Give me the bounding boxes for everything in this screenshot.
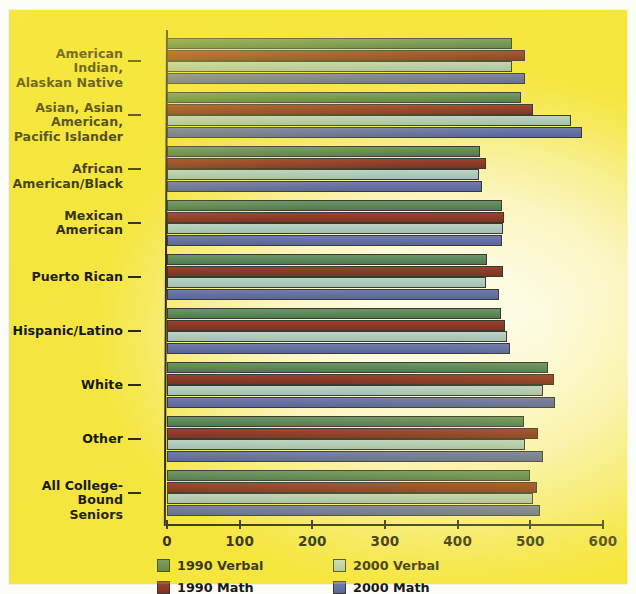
legend-item: 2000 Verbal — [333, 558, 439, 573]
category-leader-line — [128, 168, 141, 170]
category-label: All College-Bound Seniors — [9, 479, 123, 523]
bar — [167, 92, 521, 103]
bar — [167, 331, 507, 342]
bar — [167, 212, 504, 223]
bar — [167, 223, 503, 234]
bar — [167, 320, 505, 331]
bar — [167, 505, 540, 516]
bar — [167, 308, 501, 319]
bar — [167, 397, 555, 408]
blue-swatch — [333, 581, 346, 594]
x-tick-600 — [602, 520, 604, 529]
bar — [167, 493, 533, 504]
category-label: White — [81, 378, 123, 393]
bar — [167, 50, 525, 61]
bar — [167, 158, 486, 169]
light-blue-swatch — [333, 559, 346, 572]
x-tick-label-300: 300 — [371, 533, 400, 549]
legend-item: 1990 Math — [157, 580, 254, 594]
bar — [167, 343, 510, 354]
legend-label: 2000 Math — [353, 580, 430, 594]
legend-label: 2000 Verbal — [353, 558, 439, 573]
bar — [167, 115, 571, 126]
bar — [167, 169, 479, 180]
category-label-column: American Indian, Alaskan NativeAsian, As… — [9, 24, 145, 536]
bar — [167, 362, 548, 373]
bar — [167, 470, 530, 481]
category-leader-line — [128, 330, 141, 332]
category-leader-line — [128, 276, 141, 278]
category-leader-line — [128, 114, 141, 116]
bar — [167, 127, 582, 138]
bar — [167, 61, 512, 72]
bar — [167, 277, 486, 288]
x-tick-label-400: 400 — [443, 533, 472, 549]
category-label: Hispanic/Latino — [13, 324, 123, 339]
chart-canvas: American Indian, Alaskan NativeAsian, As… — [9, 10, 627, 584]
category-leader-line — [128, 438, 141, 440]
x-tick-label-100: 100 — [225, 533, 254, 549]
legend-label: 1990 Verbal — [177, 558, 263, 573]
bar — [167, 451, 543, 462]
x-tick-400 — [457, 520, 459, 529]
chart-legend: 1990 Verbal1990 Math2000 Verbal2000 Math — [157, 558, 487, 594]
category-leader-line — [128, 60, 141, 62]
x-tick-label-200: 200 — [298, 533, 327, 549]
category-label: Other — [82, 432, 123, 447]
bar — [167, 146, 480, 157]
x-tick-label-500: 500 — [516, 533, 545, 549]
bar — [167, 104, 533, 115]
category-label: Mexican American — [56, 209, 123, 238]
bar — [167, 235, 502, 246]
bar — [167, 439, 525, 450]
category-leader-line — [128, 222, 141, 224]
category-label: Puerto Rican — [31, 270, 123, 285]
bar — [167, 73, 525, 84]
x-tick-300 — [384, 520, 386, 529]
x-tick-0 — [166, 520, 168, 529]
dark-red-swatch — [157, 581, 170, 594]
bar — [167, 428, 538, 439]
bar — [167, 416, 524, 427]
chart-page: American Indian, Alaskan NativeAsian, As… — [0, 0, 636, 594]
category-leader-line — [128, 384, 141, 386]
legend-item: 1990 Verbal — [157, 558, 263, 573]
x-tick-label-600: 600 — [589, 533, 618, 549]
legend-item: 2000 Math — [333, 580, 430, 594]
category-label: Asian, Asian American, Pacific Islander — [9, 101, 123, 145]
x-tick-label-0: 0 — [162, 533, 172, 549]
category-label: American Indian, Alaskan Native — [9, 47, 123, 91]
bar — [167, 38, 512, 49]
category-label: African American/Black — [9, 162, 123, 191]
green-swatch — [157, 559, 170, 572]
bar — [167, 254, 487, 265]
bar — [167, 289, 499, 300]
x-tick-100 — [239, 520, 241, 529]
bar — [167, 482, 537, 493]
bar — [167, 374, 554, 385]
legend-label: 1990 Math — [177, 580, 254, 594]
bar — [167, 385, 543, 396]
bar — [167, 200, 502, 211]
bar — [167, 266, 503, 277]
plot-area: 0100200300400500600 — [157, 24, 627, 536]
bar — [167, 181, 482, 192]
category-leader-line — [128, 492, 141, 494]
x-tick-200 — [311, 520, 313, 529]
x-tick-500 — [529, 520, 531, 529]
